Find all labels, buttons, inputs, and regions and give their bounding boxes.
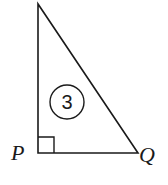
triangle-diagram: 3 P Q [0,0,168,185]
right-angle-marker [38,137,54,153]
region-number: 3 [61,91,72,113]
vertex-label-q: Q [139,142,155,167]
vertex-label-p: P [10,140,24,165]
triangle [38,4,138,153]
